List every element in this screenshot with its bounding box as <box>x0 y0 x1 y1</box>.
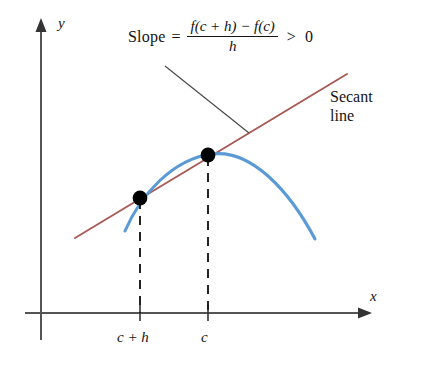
greater-than-sign: > <box>287 28 296 46</box>
equation-leader-line <box>165 66 249 133</box>
slope-equation: Slope = f(c + h) − f(c) h > 0 <box>128 18 313 55</box>
diagram-svg <box>0 0 422 369</box>
slope-word: Slope <box>128 28 165 46</box>
fraction-denominator: h <box>226 37 240 55</box>
x-axis-label: x <box>370 289 377 304</box>
tick-label-c-plus-h: c + h <box>117 330 149 345</box>
secant-label-line2: line <box>330 107 373 126</box>
y-axis-arrowhead <box>36 18 47 32</box>
x-axis-arrowhead <box>358 308 372 319</box>
secant-label-line1: Secant <box>330 88 373 105</box>
fraction-numerator: f(c + h) − f(c) <box>187 18 277 36</box>
y-axis-label: y <box>58 16 65 31</box>
difference-quotient-fraction: f(c + h) − f(c) h <box>187 18 277 55</box>
function-curve <box>125 154 315 239</box>
rhs-value-zero: 0 <box>305 28 313 46</box>
point-c <box>201 148 216 163</box>
equals-sign: = <box>171 28 180 46</box>
secant-line-callout: Secant line <box>330 88 373 126</box>
point-c-plus-h <box>133 191 148 206</box>
y-axis-group <box>36 18 47 340</box>
tick-label-c: c <box>201 330 208 345</box>
figure-canvas: y x c + h c Slope = f(c + h) − f(c) h > … <box>0 0 422 369</box>
x-axis-group <box>25 308 372 319</box>
